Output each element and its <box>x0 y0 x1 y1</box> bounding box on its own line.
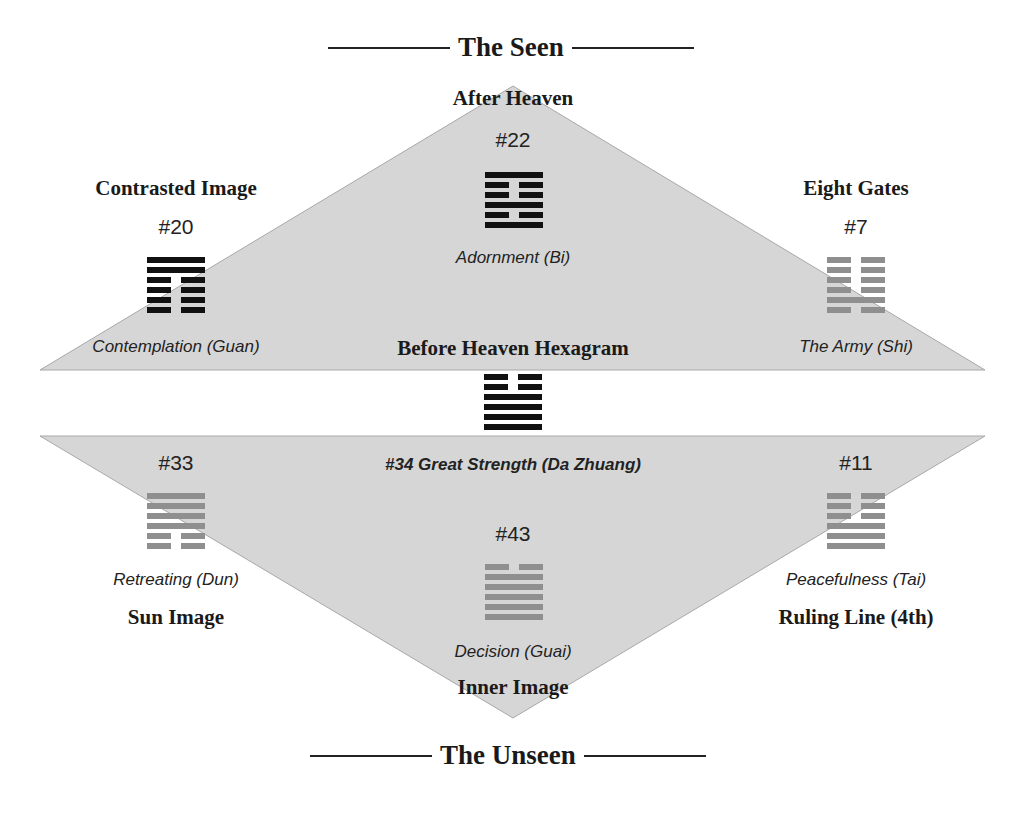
yang-line-segment <box>147 513 205 519</box>
yin-line-segment <box>518 384 542 390</box>
yin-line-segment <box>181 287 205 293</box>
hexagram-line-solid <box>485 604 543 610</box>
hexagram-line-solid <box>147 503 205 509</box>
yin-line-segment <box>181 277 205 283</box>
hexagram-line-solid <box>485 574 543 580</box>
yang-line-segment <box>485 594 543 600</box>
hexagram-line-solid <box>147 513 205 519</box>
yin-line-segment <box>147 307 171 313</box>
yin-line-segment <box>861 493 885 499</box>
yang-line-segment <box>827 523 885 529</box>
hexagram-20 <box>147 257 205 317</box>
hexagram-line-broken <box>827 513 885 519</box>
yin-line-segment <box>827 503 851 509</box>
hexagram-33 <box>147 493 205 553</box>
yin-line-segment <box>181 533 205 539</box>
hexagram-line-broken <box>485 182 543 188</box>
yang-line-segment <box>485 202 543 208</box>
hexagram-line-broken <box>484 384 542 390</box>
yang-line-segment <box>147 503 205 509</box>
yin-line-segment <box>485 564 509 570</box>
header-title-text: The Seen <box>450 32 572 63</box>
hexagram-line-solid <box>485 584 543 590</box>
yang-line-segment <box>484 414 542 420</box>
eight-gates-name: The Army (Shi) <box>799 337 913 357</box>
yin-line-segment <box>861 513 885 519</box>
hexagram-line-solid <box>827 543 885 549</box>
hexagram-line-solid <box>484 424 542 430</box>
yang-line-segment <box>484 404 542 410</box>
eight-gates-label: Eight Gates <box>803 176 909 201</box>
yin-line-segment <box>861 287 885 293</box>
yin-line-segment <box>519 182 543 188</box>
hexagram-line-broken <box>827 503 885 509</box>
hexagram-line-solid <box>827 533 885 539</box>
yin-line-segment <box>827 513 851 519</box>
hexagram-line-broken <box>147 307 205 313</box>
before-heaven-label: Before Heaven Hexagram <box>397 336 629 361</box>
yin-line-segment <box>147 533 171 539</box>
hexagram-line-broken <box>484 374 542 380</box>
hexagram-line-broken <box>485 564 543 570</box>
before-heaven-name: #34 Great Strength (Da Zhuang) <box>385 455 641 475</box>
hexagram-line-solid <box>484 404 542 410</box>
yin-line-segment <box>181 297 205 303</box>
hexagram-line-broken <box>827 267 885 273</box>
after-heaven-label: After Heaven <box>453 86 573 111</box>
hexagram-line-broken <box>485 212 543 218</box>
eight-gates-number: #7 <box>844 215 867 239</box>
hexagram-line-solid <box>485 222 543 228</box>
yin-line-segment <box>827 257 851 263</box>
yin-line-segment <box>861 503 885 509</box>
hexagram-7 <box>827 257 885 317</box>
contrasted-image-number: #20 <box>158 215 193 239</box>
hexagram-line-solid <box>484 394 542 400</box>
yang-line-segment <box>827 543 885 549</box>
footer-rule-left <box>310 755 432 757</box>
yang-line-segment <box>147 257 205 263</box>
hexagram-line-broken <box>485 192 543 198</box>
yang-line-segment <box>485 584 543 590</box>
yin-line-segment <box>147 277 171 283</box>
yang-line-segment <box>484 394 542 400</box>
ruling-line-label: Ruling Line (4th) <box>778 605 933 630</box>
yin-line-segment <box>485 182 509 188</box>
inner-image-number: #43 <box>495 522 530 546</box>
hexagram-line-broken <box>147 533 205 539</box>
yang-line-segment <box>827 533 885 539</box>
inner-image-name: Decision (Guai) <box>454 642 571 662</box>
yang-line-segment <box>485 574 543 580</box>
yin-line-segment <box>518 374 542 380</box>
contrasted-image-label: Contrasted Image <box>95 176 257 201</box>
hexagram-line-solid <box>147 523 205 529</box>
header-title: The Seen <box>328 32 694 63</box>
yin-line-segment <box>519 564 543 570</box>
yin-line-segment <box>485 192 509 198</box>
yin-line-segment <box>181 543 205 549</box>
footer-title: The Unseen <box>310 740 706 771</box>
yang-line-segment <box>485 172 543 178</box>
hexagram-line-broken <box>827 493 885 499</box>
yang-line-segment <box>484 424 542 430</box>
yang-line-segment <box>147 493 205 499</box>
yin-line-segment <box>147 287 171 293</box>
hexagram-11 <box>827 493 885 553</box>
hexagram-line-broken <box>827 287 885 293</box>
yang-line-segment <box>485 614 543 620</box>
yang-line-segment <box>147 267 205 273</box>
hexagram-line-solid <box>147 257 205 263</box>
sun-image-name: Retreating (Dun) <box>113 570 239 590</box>
hexagram-34 <box>484 374 542 434</box>
hexagram-line-solid <box>485 594 543 600</box>
contrasted-image-name: Contemplation (Guan) <box>92 337 259 357</box>
yin-line-segment <box>827 307 851 313</box>
footer-rule-right <box>584 755 706 757</box>
yin-line-segment <box>827 267 851 273</box>
yin-line-segment <box>519 192 543 198</box>
yin-line-segment <box>861 307 885 313</box>
yin-line-segment <box>485 212 509 218</box>
footer-title-text: The Unseen <box>432 740 584 771</box>
hexagram-line-broken <box>147 287 205 293</box>
hexagram-line-broken <box>827 307 885 313</box>
yang-line-segment <box>485 604 543 610</box>
